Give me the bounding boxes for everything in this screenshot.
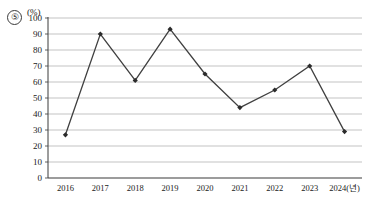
- y-axis-tick-label: 90: [18, 30, 42, 39]
- y-axis-tick-label: 50: [18, 94, 42, 103]
- y-axis-tick-label: 80: [18, 46, 42, 55]
- gridlines: [48, 18, 362, 162]
- y-axis-tick-label: 30: [18, 126, 42, 135]
- data-point-marker: [63, 132, 68, 137]
- axis-lines: [45, 17, 362, 178]
- y-axis-tick-label: 40: [18, 110, 42, 119]
- y-axis-tick-label: 100: [18, 14, 42, 23]
- line-chart-plot: [0, 0, 373, 206]
- y-axis-tick-label: 60: [18, 78, 42, 87]
- y-axis-tick-label: 10: [18, 158, 42, 167]
- chart-figure: ⑤ (%) 1009080706050403020100 20162017201…: [0, 0, 373, 206]
- y-axis-tick-label: 0: [18, 174, 42, 183]
- x-axis-tick-label: 2024(년): [319, 184, 371, 193]
- y-axis-tick-label: 70: [18, 62, 42, 71]
- y-axis-tick-label: 20: [18, 142, 42, 151]
